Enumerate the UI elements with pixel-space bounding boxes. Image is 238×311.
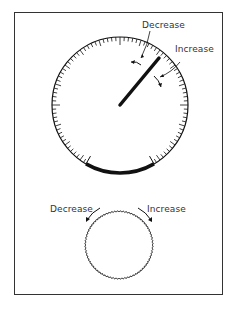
rotary-knob bbox=[85, 208, 153, 279]
arrowhead-icon bbox=[158, 83, 162, 87]
arrowhead-icon bbox=[131, 60, 135, 64]
knob-decrease-label: Decrease bbox=[50, 205, 93, 214]
knob-knurled-edge bbox=[85, 211, 153, 279]
range-band bbox=[86, 164, 154, 173]
knob-increase-label: Increase bbox=[147, 205, 186, 214]
dial-indicator bbox=[52, 31, 188, 173]
needle bbox=[120, 58, 159, 105]
dial-decrease-label: Decrease bbox=[142, 21, 185, 30]
dial-increase-label: Increase bbox=[175, 45, 214, 54]
